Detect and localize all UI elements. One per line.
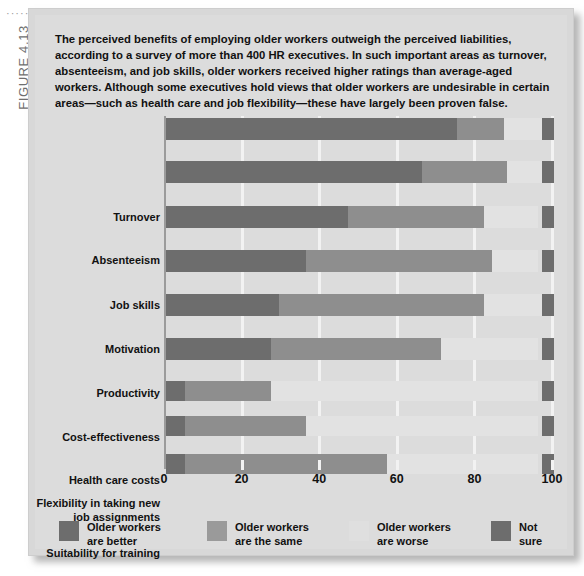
- bar-segment-better: [166, 416, 185, 436]
- x-tick-label-40: 40: [312, 472, 326, 486]
- bar-segment-notsure: [542, 294, 554, 316]
- bar-segment-better: [166, 206, 348, 228]
- legend-label: Older workers are better: [87, 520, 161, 548]
- bar-segment-same: [185, 381, 270, 401]
- bar-row: [166, 206, 555, 228]
- bar-segment-notsure: [542, 416, 554, 436]
- bar-segment-same: [279, 294, 485, 316]
- bar-segment-notsure: [542, 118, 554, 140]
- x-tick-label-60: 60: [390, 472, 404, 486]
- bar-row: [166, 294, 555, 316]
- legend-item[interactable]: Older workers are worse: [349, 520, 451, 548]
- category-label: Motivation: [35, 343, 160, 357]
- bar-row: [166, 161, 555, 183]
- x-tick-label-20: 20: [235, 472, 249, 486]
- x-tick-label-80: 80: [467, 472, 481, 486]
- bar-segment-better: [166, 118, 457, 140]
- bar-segment-same: [348, 206, 484, 228]
- x-axis: 020406080100: [164, 470, 564, 500]
- bar-segment-same: [306, 250, 492, 272]
- legend-swatch-better-icon: [59, 521, 79, 541]
- bar-segment-notsure: [542, 206, 554, 228]
- legend-label: Older workers are worse: [377, 520, 451, 548]
- category-label: Cost-effectiveness: [35, 431, 160, 445]
- bar-row: [166, 416, 555, 436]
- bar-segment-worse: [271, 381, 539, 401]
- figure-panel: The perceived benefits of employing olde…: [28, 8, 574, 556]
- category-label: Turnover: [35, 211, 160, 225]
- stacked-bar-chart: TurnoverAbsenteeismJob skillsMotivationP…: [35, 110, 567, 500]
- legend-swatch-worse-icon: [349, 521, 369, 541]
- figure-panel-inner: The perceived benefits of employing olde…: [35, 15, 567, 549]
- bar-segment-notsure: [542, 338, 554, 360]
- bar-segment-same: [271, 338, 442, 360]
- bar-row: [166, 381, 555, 401]
- bar-row: [166, 118, 555, 140]
- category-label: Absenteeism: [35, 254, 160, 268]
- legend-swatch-not-sure-icon: [491, 521, 511, 541]
- figure-rail: ······· FIGURE 4.13: [0, 0, 30, 576]
- x-tick-60: [396, 460, 399, 470]
- bar-segment-worse: [306, 416, 539, 436]
- bar-segment-worse: [484, 294, 542, 316]
- bar-segment-worse: [504, 118, 543, 140]
- bar-segment-worse: [507, 161, 542, 183]
- bar-segment-same: [422, 161, 507, 183]
- legend-item[interactable]: Older workers are better: [59, 520, 161, 548]
- bar-segment-notsure: [542, 250, 554, 272]
- bar-segment-notsure: [542, 161, 554, 183]
- legend-item[interactable]: Older workers are the same: [207, 520, 309, 548]
- bar-segment-better: [166, 250, 306, 272]
- x-tick-80: [473, 460, 476, 470]
- plot-area: [164, 116, 555, 471]
- category-label: Job skills: [35, 299, 160, 313]
- category-label: Productivity: [35, 387, 160, 401]
- bar-segment-notsure: [542, 381, 554, 401]
- bar-row: [166, 250, 555, 272]
- bar-segment-same: [457, 118, 504, 140]
- figure-caption: The perceived benefits of employing olde…: [55, 31, 553, 111]
- bar-segment-better: [166, 294, 279, 316]
- bar-segment-better: [166, 381, 185, 401]
- x-tick-label-0: 0: [161, 472, 168, 486]
- bar-segment-worse: [484, 206, 538, 228]
- legend-item[interactable]: Not sure: [491, 520, 557, 548]
- x-tick-40: [318, 460, 321, 470]
- legend-swatch-same-icon: [207, 521, 227, 541]
- chart-legend: Older workers are betterOlder workers ar…: [59, 520, 557, 560]
- x-tick-20: [241, 460, 244, 470]
- legend-label: Older workers are the same: [235, 520, 309, 548]
- x-tick-label-100: 100: [542, 472, 563, 486]
- bar-segment-better: [166, 161, 422, 183]
- category-label: Health care costs: [35, 474, 160, 488]
- bar-segment-worse: [492, 250, 539, 272]
- bar-row: [166, 338, 555, 360]
- bar-segment-better: [166, 338, 271, 360]
- bar-segment-worse: [441, 338, 538, 360]
- legend-label: Not sure: [519, 520, 557, 548]
- bar-segment-same: [185, 416, 305, 436]
- x-tick-100: [551, 460, 554, 470]
